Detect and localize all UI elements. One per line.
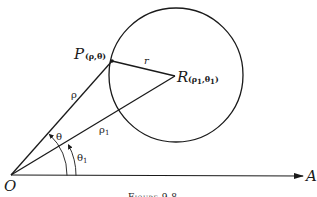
label-r-point: R — [176, 68, 188, 86]
label-p-coords: (ρ,θ) — [85, 51, 106, 61]
label-rho1: ρ1 — [99, 124, 109, 137]
label-axis-a: A — [304, 167, 317, 185]
label-p: P — [73, 45, 85, 63]
segment-rho1 — [11, 76, 175, 175]
r-coords-open: (ρ — [188, 74, 197, 84]
theta1-sub: 1 — [83, 157, 87, 165]
label-theta: θ — [56, 131, 62, 142]
polar-circle-diagram: O A P (ρ,θ) R (ρ1,θ1) r ρ ρ1 θ θ1 Figure… — [0, 0, 317, 197]
label-origin: O — [4, 177, 16, 195]
theta1-arc — [69, 145, 77, 176]
label-theta1: θ1 — [77, 152, 88, 165]
label-r-coords: (ρ1,θ1) — [188, 74, 219, 86]
rho1-sub: 1 — [105, 129, 109, 137]
figure-caption: Figure 9.8 — [128, 192, 178, 197]
label-rho: ρ — [71, 89, 77, 100]
circle — [109, 8, 243, 142]
segment-rho — [11, 61, 112, 175]
polar-axis-line — [11, 175, 303, 176]
r-coords-close: ) — [215, 74, 219, 84]
point-p-dot — [110, 59, 114, 63]
label-r-radius: r — [144, 55, 150, 66]
